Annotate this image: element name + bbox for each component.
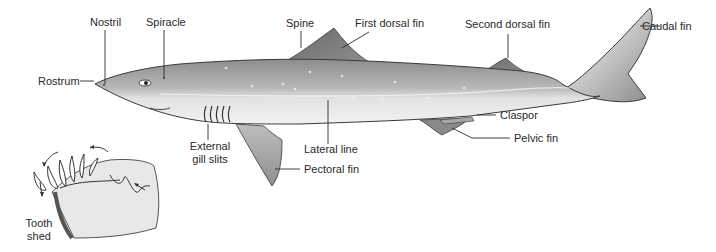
- spiracle-dot: [163, 77, 165, 79]
- label-spiracle: Spiracle: [146, 16, 186, 29]
- caudal-fin-shape: [560, 8, 652, 102]
- label-lateral-line: Lateral line: [304, 143, 358, 156]
- nostril-dot: [103, 84, 105, 86]
- pectoral-fin-shape: [236, 124, 282, 186]
- label-second-dorsal-fin: Second dorsal fin: [465, 18, 550, 31]
- label-clasper: Claspor: [500, 109, 538, 122]
- label-caudal-fin: Caudal fin: [642, 20, 692, 33]
- label-first-dorsal-fin: First dorsal fin: [355, 17, 424, 30]
- label-external-gill-slits: External gill slits: [186, 140, 234, 166]
- label-tooth-shed: Tooth shed: [22, 217, 56, 243]
- label-rostrum: Rostrum: [38, 75, 80, 88]
- label-spine: Spine: [286, 17, 314, 30]
- label-nostril: Nostril: [90, 16, 121, 29]
- shark-illustration: [0, 0, 716, 252]
- label-pelvic-fin: Pelvic fin: [514, 132, 558, 145]
- label-pectoral-fin: Pectoral fin: [304, 163, 359, 176]
- shark-diagram: Nostril Spiracle Spine First dorsal fin …: [0, 0, 716, 252]
